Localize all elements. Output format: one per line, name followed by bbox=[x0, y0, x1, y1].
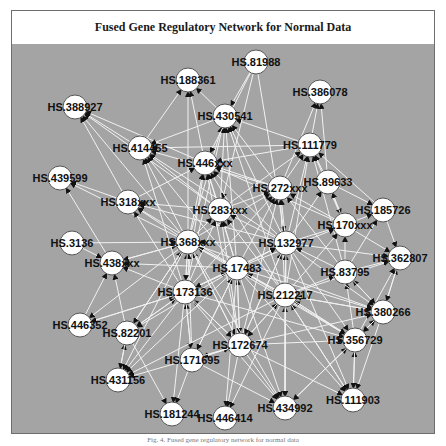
network-node: HS.272xxx bbox=[252, 176, 308, 200]
network-node: HS.356729 bbox=[327, 328, 382, 352]
edge bbox=[332, 192, 341, 215]
node-label: HS.318xxx bbox=[100, 196, 156, 208]
edge bbox=[315, 155, 323, 172]
node-label: HS.173136 bbox=[157, 286, 212, 298]
node-label: HS.111779 bbox=[283, 139, 337, 151]
edge bbox=[354, 231, 390, 253]
node-label: HS.386078 bbox=[292, 86, 347, 98]
node-label: HS.356729 bbox=[327, 334, 382, 346]
network-node: HS.283xxx bbox=[192, 198, 248, 222]
node-label: HS.17483 bbox=[213, 262, 262, 274]
network-graph: HS.188361HS.81988HS.386078HS.388927HS.43… bbox=[0, 0, 446, 446]
edge bbox=[150, 120, 214, 144]
network-node: HS.362807 bbox=[372, 246, 427, 270]
node-label: HS.272xxx bbox=[252, 182, 308, 194]
node-label: HS.434992 bbox=[257, 402, 312, 414]
node-label: HS.439599 bbox=[32, 172, 87, 184]
node-label: HS.438xxx bbox=[84, 257, 140, 269]
network-node: HS.132977 bbox=[258, 231, 313, 255]
network-node: HS.188361 bbox=[160, 68, 215, 92]
node-label: HS.368xxx bbox=[160, 236, 216, 248]
edge bbox=[353, 351, 354, 389]
node-label: HS.3136 bbox=[51, 237, 94, 249]
node-label: HS.380266 bbox=[355, 306, 410, 318]
node-label: HS.111903 bbox=[326, 394, 380, 406]
node-label: HS.171695 bbox=[164, 354, 219, 366]
network-node: HS.446414 bbox=[197, 406, 253, 430]
node-label: HS.446xxx bbox=[177, 157, 233, 169]
network-node: HS.446352 bbox=[52, 313, 107, 337]
edge bbox=[387, 220, 397, 247]
edge bbox=[227, 356, 238, 407]
network-node: HS.380266 bbox=[355, 300, 410, 324]
edge bbox=[143, 158, 181, 281]
network-node: HS.386078 bbox=[292, 80, 347, 104]
node-label: HS.185726 bbox=[355, 204, 410, 216]
node-label: HS.89633 bbox=[304, 176, 353, 188]
edge bbox=[151, 145, 299, 148]
network-node: HS.430541 bbox=[197, 104, 252, 128]
node-label: HS.81988 bbox=[232, 56, 281, 68]
edge bbox=[82, 115, 181, 233]
edge bbox=[120, 344, 125, 369]
network-node: HS.111903 bbox=[326, 388, 380, 412]
network-node: HS.111779 bbox=[283, 133, 337, 157]
edge bbox=[85, 273, 107, 315]
node-label: HS.431156 bbox=[91, 374, 145, 386]
edge bbox=[312, 103, 318, 134]
edge bbox=[223, 73, 254, 200]
node-label: HS.188361 bbox=[160, 74, 215, 86]
node-label: HS.446414 bbox=[197, 412, 253, 424]
edge bbox=[146, 89, 181, 139]
node-label: HS.430541 bbox=[197, 110, 252, 122]
network-node: HS.81988 bbox=[232, 50, 281, 74]
edge bbox=[290, 193, 336, 219]
node-label: HS.181244 bbox=[144, 408, 200, 420]
node-label: HS.362807 bbox=[372, 252, 427, 264]
network-node: HS.82201 bbox=[103, 321, 152, 345]
edge bbox=[321, 103, 327, 171]
edge bbox=[122, 267, 175, 288]
node-label: HS.414455 bbox=[112, 142, 167, 154]
network-node: HS.431156 bbox=[91, 368, 145, 392]
figure-caption: Fig. 4. Fused gene regulatory network fo… bbox=[0, 436, 446, 444]
network-node: HS.3136 bbox=[51, 231, 94, 255]
network-node: HS.439599 bbox=[32, 166, 87, 190]
node-label: HS.172674 bbox=[212, 339, 268, 351]
node-label: HS.83795 bbox=[321, 266, 370, 278]
node-label: HS.446352 bbox=[52, 319, 107, 331]
node-label: HS.132977 bbox=[258, 237, 313, 249]
node-label: HS.212217 bbox=[257, 289, 312, 301]
edge bbox=[293, 348, 347, 401]
node-label: HS.388927 bbox=[47, 101, 102, 113]
edge bbox=[196, 88, 217, 109]
edge bbox=[230, 72, 250, 107]
edge bbox=[176, 370, 188, 403]
node-label: HS.170xxx bbox=[317, 219, 373, 231]
node-label: HS.82201 bbox=[103, 327, 152, 339]
node-label: HS.283xxx bbox=[192, 204, 248, 216]
edge bbox=[123, 252, 183, 370]
nodes-layer: HS.188361HS.81988HS.386078HS.388927HS.43… bbox=[32, 50, 427, 430]
network-node: HS.181244 bbox=[144, 402, 200, 426]
edge bbox=[353, 280, 376, 304]
network-node: HS.434992 bbox=[257, 396, 312, 420]
